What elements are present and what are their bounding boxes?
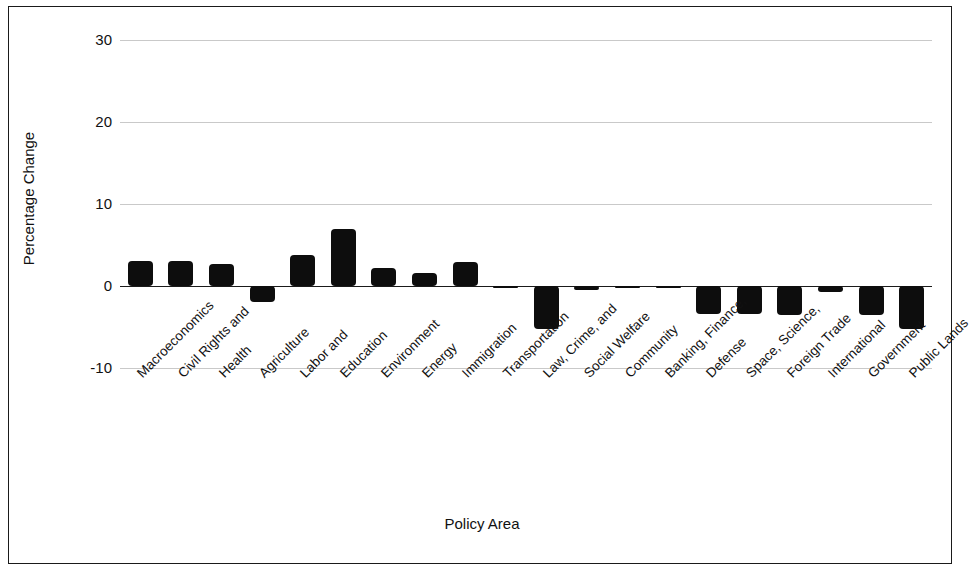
bar [777, 286, 802, 315]
bar [615, 286, 640, 288]
gridline--10 [120, 368, 932, 369]
bar [696, 286, 721, 314]
bar [453, 262, 478, 286]
bar [250, 286, 275, 302]
bar [656, 286, 681, 288]
bar [493, 286, 518, 288]
y-tick-20: 20 [52, 114, 112, 129]
bar [574, 286, 599, 290]
bar [331, 229, 356, 286]
x-axis-tick-labels: MacroeconomicsCivil Rights andHealthAgri… [120, 370, 932, 500]
y-axis-title: Percentage Change [20, 99, 37, 299]
bar [859, 286, 884, 315]
y-tick--10: -10 [52, 360, 112, 375]
bar [209, 264, 234, 286]
bar [371, 268, 396, 286]
y-tick-10: 10 [52, 196, 112, 211]
bar [128, 261, 153, 286]
x-axis-title: Policy Area [0, 515, 964, 532]
bar [290, 255, 315, 286]
y-tick-30: 30 [52, 32, 112, 47]
bar [168, 261, 193, 286]
y-tick-0: 0 [52, 278, 112, 293]
bar [412, 273, 437, 286]
bar [818, 286, 843, 292]
